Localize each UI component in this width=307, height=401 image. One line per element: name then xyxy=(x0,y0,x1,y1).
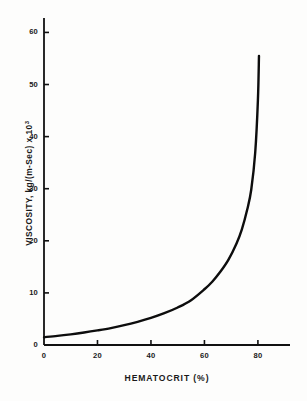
figure-canvas: VISCOSITY, kg/(m-Sec) x 103 010203040506… xyxy=(0,0,307,401)
axis-tick-marks xyxy=(44,32,258,345)
data-curve-blood-viscosity xyxy=(44,56,259,337)
plot-area xyxy=(0,0,307,401)
